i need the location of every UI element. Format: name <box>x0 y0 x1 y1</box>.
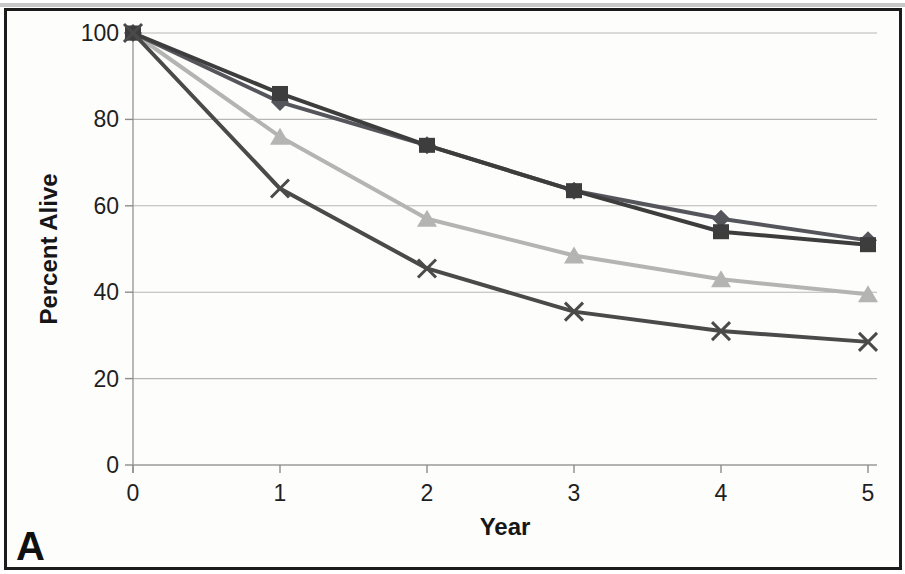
y-tick-label: 100 <box>81 20 119 46</box>
panel-label: A <box>16 526 45 566</box>
y-tick-label: 60 <box>93 193 119 219</box>
x-tick-label: 3 <box>568 480 581 506</box>
x-tick-label: 4 <box>715 480 728 506</box>
x-tick-label: 1 <box>274 480 287 506</box>
y-tick-label: 20 <box>93 366 119 392</box>
square-series-marker <box>272 86 288 101</box>
x-tick-label: 2 <box>421 480 434 506</box>
figure-panel: 020406080100012345Percent AliveYear A <box>0 0 905 574</box>
y-axis-title: Percent Alive <box>35 173 62 324</box>
triangle-series-marker <box>417 210 437 227</box>
x-tick-label: 0 <box>127 480 140 506</box>
square-series-marker <box>713 224 729 239</box>
square-series-marker <box>419 138 435 153</box>
survival-chart: 020406080100012345Percent AliveYear <box>0 0 905 574</box>
square-series-line <box>133 33 868 245</box>
x-tick-label: 5 <box>862 480 875 506</box>
triangle-series-line <box>133 33 868 294</box>
x-axis-title: Year <box>480 513 531 540</box>
diamond-series-line <box>133 33 868 240</box>
y-tick-label: 40 <box>93 279 119 305</box>
y-tick-label: 0 <box>106 452 119 478</box>
square-series-marker <box>860 237 876 252</box>
square-series-marker <box>566 183 582 198</box>
y-tick-label: 80 <box>93 106 119 132</box>
